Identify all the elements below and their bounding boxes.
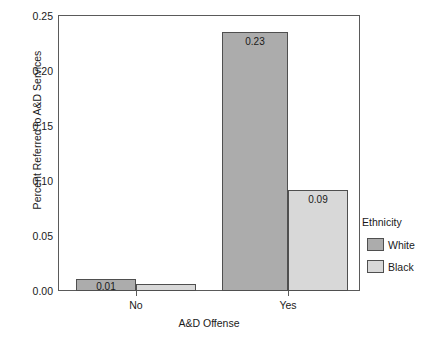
legend-title: Ethnicity bbox=[362, 216, 415, 228]
legend-label-white: White bbox=[388, 239, 415, 251]
x-tick-mark-no bbox=[136, 291, 137, 296]
y-tick-label-015: 0.15 bbox=[0, 121, 53, 131]
x-tick-label-no: No bbox=[106, 299, 166, 311]
y-tick-label-020: 0.20 bbox=[0, 66, 53, 76]
legend-item-white: White bbox=[367, 238, 415, 251]
legend-item-black: Black bbox=[367, 260, 415, 273]
legend-label-black: Black bbox=[388, 261, 414, 273]
legend-swatch-black bbox=[367, 260, 384, 273]
bar-yes-white bbox=[222, 32, 288, 291]
bar-chart: Percent Referred to A&D Services 0.25 0.… bbox=[0, 0, 425, 339]
bar-label-no-white: 0.01 bbox=[76, 281, 136, 292]
x-tick-mark-yes bbox=[288, 291, 289, 296]
x-axis-label: A&D Offense bbox=[58, 317, 360, 329]
x-tick-label-yes: Yes bbox=[258, 299, 318, 311]
y-tick-label-005: 0.05 bbox=[0, 231, 53, 241]
legend-swatch-white bbox=[367, 238, 384, 251]
bar-label-yes-white: 0.23 bbox=[222, 36, 288, 47]
bar-label-yes-black: 0.09 bbox=[288, 194, 348, 205]
bar-yes-black bbox=[288, 190, 348, 291]
y-tick-label-010: 0.10 bbox=[0, 176, 53, 186]
legend: Ethnicity White Black bbox=[362, 216, 415, 282]
y-tick-label-025: 0.25 bbox=[0, 11, 53, 21]
y-tick-label-000: 0.00 bbox=[0, 286, 53, 296]
bar-no-black bbox=[136, 284, 196, 291]
